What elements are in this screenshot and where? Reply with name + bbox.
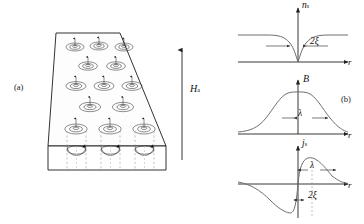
- figure-root: (a) Ha: [0, 0, 364, 224]
- js-plot: [238, 146, 348, 218]
- applied-field-subscript: a: [197, 86, 200, 93]
- ns-axis-label: ns: [302, 0, 309, 10]
- js-xi-label: 2ξ: [308, 190, 317, 200]
- js-subscript: s: [305, 141, 307, 147]
- b-annotation-label: λ: [298, 108, 302, 118]
- slab-top-face: [48, 33, 166, 146]
- ns-subscript: s: [307, 3, 309, 9]
- panel-a-tag: (a): [14, 82, 23, 92]
- slab-front-face: [48, 146, 166, 170]
- js-axis-label: js: [302, 138, 307, 148]
- panel-b-tag: (b): [341, 94, 351, 104]
- js-lambda-label: λ: [310, 160, 314, 170]
- ns-plot: [238, 8, 348, 62]
- b-axis-label: B: [303, 73, 309, 84]
- js-x-label: r: [348, 180, 352, 190]
- js-curve: [238, 158, 348, 213]
- ns-annotation-label: 2ξ: [310, 36, 319, 46]
- b-x-label: r: [348, 130, 352, 140]
- applied-field-label: Ha: [190, 83, 200, 94]
- slab-body: [48, 33, 166, 170]
- b-curve: [238, 92, 348, 132]
- ns-curve: [238, 35, 348, 62]
- panel-a-vortex-lattice: [0, 0, 236, 224]
- b-plot: [238, 80, 348, 134]
- ns-x-label: r: [348, 57, 352, 67]
